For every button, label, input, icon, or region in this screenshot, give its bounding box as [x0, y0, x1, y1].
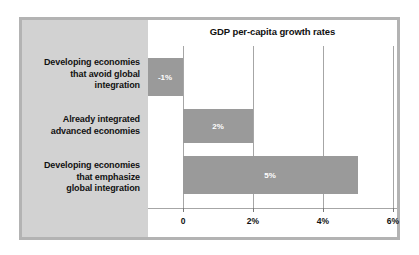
- plot-box: -1% 2% 5%: [148, 46, 397, 208]
- bar-value-already-integrated-advanced: 2%: [212, 122, 224, 131]
- x-tick-label-0: 0: [181, 216, 186, 226]
- bar-value-emphasize-global-integration: 5%: [264, 171, 276, 180]
- category-label-emphasize-global-integration: Developing economies that emphasize glob…: [24, 160, 140, 195]
- category-label-line: that avoid global: [24, 69, 140, 81]
- category-label-line: that emphasize: [24, 172, 140, 184]
- gridline-6: [393, 46, 394, 208]
- category-label-line: Already integrated: [24, 114, 140, 126]
- category-label-line: Developing economies: [24, 57, 140, 69]
- category-label-avoid-global-integration: Developing economies that avoid global i…: [24, 57, 140, 92]
- plot-area: GDP per-capita growth rates -1% 2% 5%: [148, 20, 397, 237]
- x-tick-mark-4: [323, 208, 324, 212]
- category-label-line: advanced economies: [24, 126, 140, 138]
- x-tick-label-4: 4%: [317, 216, 329, 226]
- chart-figure-inner: Developing economies that avoid global i…: [22, 20, 397, 237]
- category-label-already-integrated-advanced: Already integrated advanced economies: [24, 114, 140, 137]
- bar-value-avoid-global-integration: -1%: [158, 73, 172, 82]
- x-axis-line: [148, 208, 397, 209]
- chart-title: GDP per-capita growth rates: [148, 26, 397, 37]
- x-tick-label-2: 2%: [247, 216, 259, 226]
- x-tick-mark-6: [393, 208, 394, 212]
- x-tick-label-6: 6%: [387, 216, 399, 226]
- x-tick-mark-0: [183, 208, 184, 212]
- chart-figure: Developing economies that avoid global i…: [19, 17, 400, 240]
- category-label-line: integration: [24, 80, 140, 92]
- category-label-panel: Developing economies that avoid global i…: [22, 20, 148, 237]
- category-label-line: global integration: [24, 183, 140, 195]
- category-label-line: Developing economies: [24, 160, 140, 172]
- x-tick-mark-2: [253, 208, 254, 212]
